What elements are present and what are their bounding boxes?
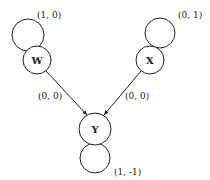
node-x: X [136, 46, 164, 74]
node-y-label: Y [90, 124, 99, 135]
state-diagram: W X Y (1, 0) (0, 1) (1, -1) (0, 0) (0, 0… [0, 0, 210, 180]
node-x-label: X [146, 55, 154, 66]
node-w: W [23, 46, 51, 74]
edge-w-to-y-label: (0, 0) [38, 91, 62, 101]
edge-x-to-y-label: (0, 0) [125, 91, 149, 101]
node-w-label: W [30, 55, 43, 66]
self-loop-x-label: (0, 1) [178, 10, 202, 20]
node-y: Y [79, 113, 111, 145]
self-loop-w-label: (1, 0) [37, 10, 61, 20]
self-loop-y-label: (1, -1) [114, 167, 141, 177]
self-loop-x [145, 18, 175, 48]
self-loop-y [80, 143, 110, 173]
